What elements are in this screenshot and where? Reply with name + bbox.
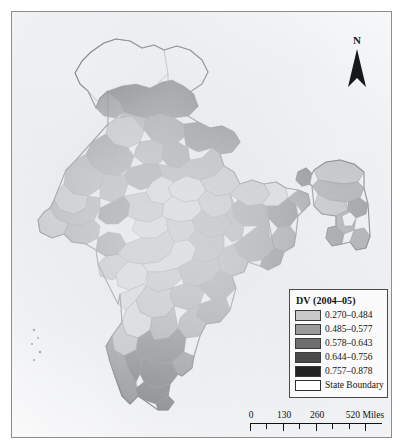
north-arrow-label: N [334, 34, 380, 46]
legend-item-class-4[interactable]: 0.644–0.756 [295, 351, 383, 364]
legend-label-class-1: 0.270–0.484 [325, 310, 373, 321]
scale-bar: 0 130 260 520 Miles [248, 410, 384, 432]
legend-label-class-5: 0.757–0.878 [325, 366, 373, 377]
scale-tick-mark-4 [316, 423, 317, 431]
legend-label-class-4: 0.644–0.756 [325, 352, 373, 363]
north-arrow: N [334, 34, 380, 96]
scale-tick-mark-2 [283, 423, 284, 431]
island-dots [31, 329, 41, 361]
legend-item-class-5[interactable]: 0.757–0.878 [295, 365, 383, 378]
legend-swatch-class-4 [295, 352, 321, 363]
scale-bar-labels: 0 130 260 520 Miles [248, 410, 384, 422]
legend-swatch-class-5 [295, 366, 321, 377]
legend-item-state-boundary[interactable]: State Boundary [295, 379, 383, 392]
legend-label-class-3: 0.578–0.643 [325, 338, 373, 349]
legend-label-state-boundary: State Boundary [325, 380, 384, 391]
scale-tick-mark-6 [349, 423, 350, 429]
region-sikkim[interactable] [296, 168, 312, 186]
legend-swatch-class-3 [295, 338, 321, 349]
scale-tick-mark-1 [266, 423, 267, 429]
scale-tick-mark-7 [365, 423, 366, 431]
scale-tick-label-130: 130 [277, 410, 291, 421]
legend-title: DV (2004–05) [296, 295, 383, 306]
region-tamil-nadu[interactable] [136, 328, 194, 410]
scale-tick-label-0: 0 [249, 410, 254, 421]
legend-item-class-2[interactable]: 0.485–0.577 [295, 323, 383, 336]
scale-bar-ticks [248, 423, 384, 432]
region-northeast[interactable] [312, 160, 370, 250]
legend-swatch-state-boundary [295, 380, 321, 391]
map-figure: .d{stroke:#2f2f2f;stroke-width:.55;strok… [0, 0, 404, 448]
legend-item-class-1[interactable]: 0.270–0.484 [295, 309, 383, 322]
scale-tick-mark-0 [250, 423, 251, 431]
scale-tick-label-260: 260 [310, 410, 324, 421]
legend-swatch-class-1 [295, 310, 321, 321]
north-arrow-icon [334, 47, 380, 95]
map-legend[interactable]: DV (2004–05) 0.270–0.484 0.485–0.577 0.5… [289, 289, 388, 398]
scale-tick-mark-5 [332, 423, 333, 429]
scale-tick-mark-3 [299, 423, 300, 429]
map-frame: .d{stroke:#2f2f2f;stroke-width:.55;strok… [11, 11, 392, 438]
legend-item-class-3[interactable]: 0.578–0.643 [295, 337, 383, 350]
legend-label-class-2: 0.485–0.577 [325, 324, 373, 335]
scale-tick-label-520-miles: 520 Miles [346, 410, 384, 421]
legend-swatch-class-2 [295, 324, 321, 335]
